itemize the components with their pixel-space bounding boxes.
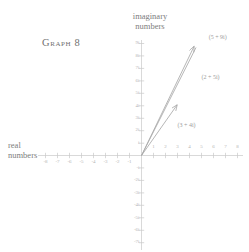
y-tick-label: 9i (126, 40, 140, 45)
y-tick-label: 5i (126, 90, 140, 95)
x-tick-label: 8 (231, 144, 245, 149)
y-tick-label: i (126, 140, 140, 145)
imaginary-axis-label-line2: numbers (117, 22, 183, 32)
y-tick-label: -3i (126, 190, 140, 195)
vector-5-plus-9i-label: (5 + 9i) (209, 34, 227, 40)
y-tick-label: 6i (126, 78, 140, 83)
vector-3-plus-4i-label: (3 + 4i) (178, 122, 196, 128)
y-tick-label: 2i (126, 127, 140, 132)
x-tick-label: -1 (123, 159, 137, 164)
y-tick-label: 7i (126, 65, 140, 70)
page-title: Graph 8 (42, 37, 80, 49)
imaginary-axis-label: imaginary numbers (117, 12, 183, 32)
vector-5-plus-9i-line (142, 47, 195, 156)
y-tick-label: 3i (126, 115, 140, 120)
y-tick-label: 4i (126, 103, 140, 108)
y-tick-label: 8i (126, 53, 140, 58)
y-tick-label: -6i (126, 227, 140, 232)
graph-figure: Graph 8 imaginary numbers real numbers -… (0, 0, 249, 252)
y-tick-label: -4i (126, 202, 140, 207)
y-tick-label: -i (126, 165, 140, 170)
y-tick-label: -5i (126, 215, 140, 220)
vectors-group (142, 47, 197, 156)
y-tick-label: -2i (126, 177, 140, 182)
y-tick-label: -7i (126, 239, 140, 244)
vector-2-plus-5i-label: (2 + 5i) (202, 74, 220, 80)
real-axis-label: real numbers (8, 141, 66, 161)
